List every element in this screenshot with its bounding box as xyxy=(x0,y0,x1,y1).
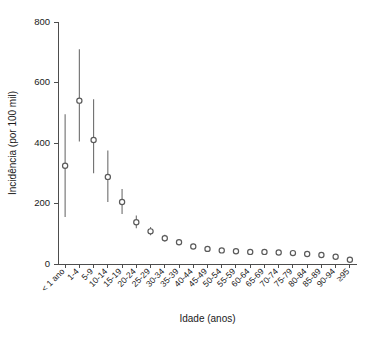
data-point xyxy=(162,236,167,241)
y-tick-label: 600 xyxy=(34,76,50,87)
data-point xyxy=(205,246,210,251)
data-point-markers xyxy=(63,98,353,262)
data-point xyxy=(248,249,253,254)
data-point xyxy=(319,252,324,257)
y-tick-label: 800 xyxy=(34,16,50,27)
data-point xyxy=(262,249,267,254)
data-point xyxy=(63,163,68,168)
y-tick-label: 400 xyxy=(34,137,50,148)
data-point xyxy=(105,174,110,179)
x-tick-label: ≥95 xyxy=(334,266,351,283)
axes xyxy=(54,22,357,268)
data-point xyxy=(305,251,310,256)
data-point xyxy=(77,98,82,103)
x-tick-label: 1-4 xyxy=(65,266,81,282)
data-point xyxy=(91,137,96,142)
data-point xyxy=(176,240,181,245)
chart-figure: 0200400600800< 1 ano1-45-910-1415-1920-2… xyxy=(0,0,369,338)
data-point xyxy=(148,229,153,234)
data-point xyxy=(290,251,295,256)
data-point xyxy=(134,220,139,225)
axis-labels: 0200400600800< 1 ano1-45-910-1415-1920-2… xyxy=(7,16,351,324)
y-tick-label: 200 xyxy=(34,197,50,208)
data-point xyxy=(233,249,238,254)
data-point xyxy=(191,244,196,249)
data-point xyxy=(347,257,352,262)
data-point xyxy=(219,248,224,253)
y-tick-label: 0 xyxy=(45,258,50,269)
x-axis-title: Idade (anos) xyxy=(179,313,235,324)
data-point xyxy=(333,254,338,259)
error-bars xyxy=(65,49,350,262)
data-point xyxy=(119,199,124,204)
incidence-by-age-scatter-plot: 0200400600800< 1 ano1-45-910-1415-1920-2… xyxy=(0,0,369,338)
x-tick-label: < 1 ano xyxy=(39,266,66,293)
data-point xyxy=(276,250,281,255)
y-axis-title: Incidência (por 100 mil) xyxy=(7,91,18,195)
